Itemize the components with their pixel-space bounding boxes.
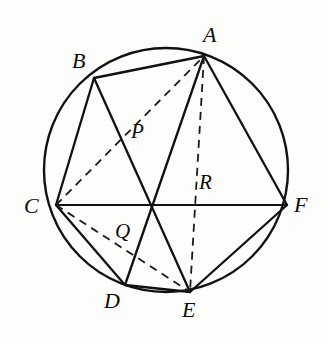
point-label-D: D: [104, 290, 120, 312]
segment-EF: [190, 205, 287, 292]
segment-AD: [125, 56, 204, 285]
point-label-C: C: [24, 195, 39, 217]
point-label-R: R: [199, 172, 212, 193]
point-label-B: B: [72, 50, 85, 72]
circumscribed-circle: [44, 48, 288, 292]
point-label-P: P: [131, 121, 144, 142]
segment-AB: [94, 56, 204, 78]
geometry-figure: A B C D E F P Q R: [0, 0, 330, 343]
point-label-F: F: [294, 194, 307, 216]
point-label-E: E: [182, 299, 195, 321]
point-label-Q: Q: [115, 221, 130, 242]
geometry-canvas: [0, 0, 330, 343]
segment-BC: [56, 78, 94, 205]
segment-CD: [56, 205, 125, 285]
dashed-segments-group: [56, 56, 204, 292]
point-label-A: A: [203, 24, 216, 46]
